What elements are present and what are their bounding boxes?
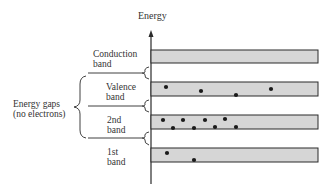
energy-gaps-label-line1: Energy gaps — [13, 99, 66, 109]
first-band-label-line2: band — [107, 157, 125, 167]
energy-gaps-label-line2: (no electrons) — [13, 109, 66, 119]
small-brace-icons — [142, 67, 149, 145]
second-band-label-line2: band — [107, 125, 125, 135]
band-diagram-graphic — [0, 0, 335, 193]
second-band-label-line1: 2nd — [107, 115, 125, 125]
energy-axis-label: Energy — [138, 11, 167, 21]
first-band — [151, 148, 318, 162]
first-band-label: 1st band — [107, 147, 125, 167]
valence-band-label-line2: band — [106, 92, 136, 102]
second-band-label: 2nd band — [107, 115, 125, 135]
conduction-band-label-line2: band — [93, 59, 137, 69]
valence-band-label-line1: Valence — [106, 82, 136, 92]
energy-gaps-label: Energy gaps (no electrons) — [13, 99, 66, 119]
first-band-label-line1: 1st — [107, 147, 125, 157]
axis-arrow-icon — [149, 30, 154, 37]
valence-band-label: Valence band — [106, 82, 136, 102]
conduction-band-label: Conduction band — [93, 49, 137, 69]
conduction-band-label-line1: Conduction — [93, 49, 137, 59]
large-brace-icon — [74, 76, 86, 138]
conduction-band — [151, 50, 318, 63]
